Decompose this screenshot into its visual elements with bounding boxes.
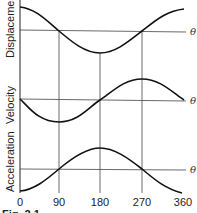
theta-symbol-acceleration: θ	[190, 164, 196, 175]
acceleration-label: Acceleration	[4, 131, 16, 192]
tick-0: 0	[17, 196, 23, 208]
tick-180: 180	[91, 196, 109, 208]
displacement-label: Displacement	[4, 0, 16, 58]
tick-360: 360	[174, 196, 192, 208]
tick-90: 90	[53, 196, 65, 208]
theta-symbol-displacement: θ	[190, 26, 196, 37]
tick-270: 270	[133, 196, 151, 208]
theta-symbol-velocity: θ	[190, 95, 196, 106]
acceleration-curve	[20, 148, 182, 193]
velocity-axis	[20, 99, 186, 101]
figure-caption: Fig. 2.1	[2, 208, 40, 213]
velocity-label: Velocity	[4, 86, 16, 124]
motion-diagram: Displacement Velocity Acceleration θ θ θ…	[0, 0, 197, 213]
displacement-axis	[20, 30, 186, 32]
acceleration-axis	[20, 169, 186, 170]
